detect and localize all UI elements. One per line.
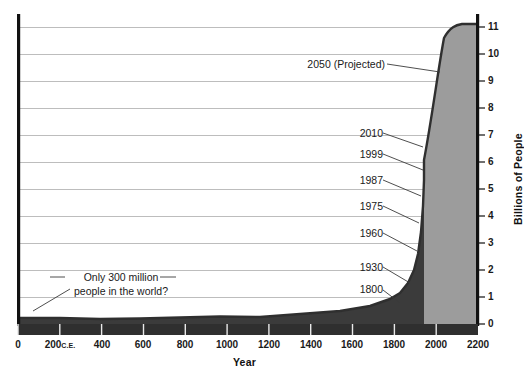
xtick-label-1200-value: 1200 <box>258 339 280 350</box>
annotation-300-million-line1: Only 300 million <box>62 271 180 285</box>
xtick-label-800: 800 <box>170 340 200 350</box>
ytick-label-11: 11 <box>488 22 499 32</box>
ytick-label-4: 4 <box>488 211 494 221</box>
xtick-label-2000: 2000 <box>420 340 452 350</box>
xtick-label-2200-value: 2200 <box>467 339 489 350</box>
xtick-label-1200: 1200 <box>253 340 285 350</box>
xtick-label-2000-value: 2000 <box>425 339 447 350</box>
xtick-label-1000-value: 1000 <box>216 339 238 350</box>
annotation-1800: 1800 <box>325 283 383 296</box>
xtick-label-200-value: 200 <box>45 339 62 350</box>
y-axis-left-spine <box>17 14 20 326</box>
x-axis-band <box>18 324 478 335</box>
xtick-label-1000: 1000 <box>211 340 243 350</box>
annotation-300-million-line2: people in the world? <box>62 285 180 299</box>
xtick-label-400-value: 400 <box>94 339 111 350</box>
ytick-label-1: 1 <box>488 292 494 302</box>
annotation-1975: 1975 <box>325 200 383 213</box>
annotation-1930: 1930 <box>325 261 383 274</box>
ytick-label-3: 3 <box>488 238 494 248</box>
annotation-1987: 1987 <box>325 174 383 187</box>
xtick-label-600: 600 <box>128 340 158 350</box>
y-axis-title: Billions of People <box>512 133 524 225</box>
ytick-label-10: 10 <box>488 49 499 59</box>
ytick-label-0: 0 <box>488 319 494 329</box>
xtick-label-1800-value: 1800 <box>383 339 405 350</box>
xtick-label-600-value: 600 <box>135 339 152 350</box>
xtick-label-400: 400 <box>87 340 117 350</box>
ytick-label-9: 9 <box>488 76 494 86</box>
xtick-label-1400-value: 1400 <box>300 339 322 350</box>
ytick-label-7: 7 <box>488 130 494 140</box>
xtick-label-1400: 1400 <box>295 340 327 350</box>
xtick-label-1600: 1600 <box>336 340 368 350</box>
xtick-label-0-value: 0 <box>15 339 21 350</box>
ytick-label-6: 6 <box>488 157 494 167</box>
xtick-label-1800: 1800 <box>378 340 410 350</box>
ytick-label-2: 2 <box>488 265 494 275</box>
annotation-300-million: Only 300 million people in the world? <box>62 271 180 298</box>
y-axis-right-spine <box>476 14 479 326</box>
annotation-1999: 1999 <box>325 148 383 161</box>
xtick-label-1600-value: 1600 <box>341 339 363 350</box>
annotation-2050: 2050 (Projected) <box>267 58 385 71</box>
xtick-label-200-era: C.E. <box>61 342 75 349</box>
annotation-2010: 2010 <box>325 127 383 140</box>
ytick-label-8: 8 <box>488 103 494 113</box>
xtick-label-800-value: 800 <box>177 339 194 350</box>
xtick-label-0: 0 <box>8 340 28 350</box>
xtick-label-200: 200C.E. <box>36 340 84 351</box>
y-axis-ticks <box>479 27 485 324</box>
ytick-label-5: 5 <box>488 184 494 194</box>
x-axis-title: Year <box>233 356 256 368</box>
annotation-1960: 1960 <box>325 227 383 240</box>
xtick-label-2200: 2200 <box>462 340 494 350</box>
